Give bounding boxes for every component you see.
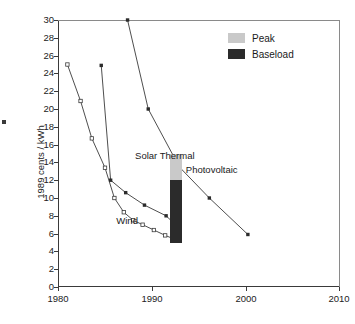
- y-tick-label: 28: [43, 32, 54, 43]
- x-tick-mark: [246, 287, 247, 291]
- y-tick-label: 0: [49, 281, 54, 292]
- data-point-marker: [90, 137, 93, 140]
- y-tick-label: 30: [43, 14, 54, 25]
- y-tick-label: 12: [43, 174, 54, 185]
- series-line-solar-thermal: [101, 65, 179, 228]
- x-tick-label: 2000: [235, 293, 256, 304]
- x-tick-mark: [152, 287, 153, 291]
- data-point-marker: [141, 223, 144, 226]
- plot-area: 024681012141618202224262830 198019902000…: [58, 20, 340, 287]
- data-point-marker: [143, 203, 146, 206]
- legend-label-baseload: Baseload: [252, 49, 294, 60]
- y-tick-label: 8: [49, 210, 54, 221]
- data-point-marker: [66, 63, 69, 66]
- y-tick-label: 16: [43, 139, 54, 150]
- legend-item-peak: Peak: [228, 31, 294, 45]
- legend-swatch-baseload: [228, 49, 245, 59]
- x-tick-label: 2010: [328, 293, 349, 304]
- data-point-marker: [147, 107, 150, 110]
- data-point-marker: [100, 64, 103, 67]
- data-point-marker: [109, 179, 112, 182]
- data-point-marker: [122, 211, 125, 214]
- chart-figure: 1989 cents / kWh 02468101214161820222426…: [0, 0, 355, 324]
- data-point-marker: [164, 214, 167, 217]
- data-point-marker: [152, 228, 155, 231]
- x-tick-label: 1990: [141, 293, 162, 304]
- data-point-marker: [103, 166, 106, 169]
- data-point-marker: [124, 191, 127, 194]
- y-tick-label: 18: [43, 121, 54, 132]
- series-layer: [58, 20, 340, 287]
- data-point-marker: [79, 99, 82, 102]
- annotation-wind: Wind: [116, 215, 138, 226]
- legend-label-peak: Peak: [252, 33, 275, 44]
- x-tick-label: 1980: [47, 293, 68, 304]
- legend-item-baseload: Baseload: [228, 47, 294, 61]
- y-tick-label: 20: [43, 103, 54, 114]
- annotation-solar-thermal: Solar Thermal: [135, 150, 195, 161]
- legend: Peak Baseload: [228, 31, 294, 63]
- x-tick-mark: [58, 287, 59, 291]
- y-tick-label: 26: [43, 50, 54, 61]
- legend-swatch-peak: [228, 33, 245, 43]
- annotation-photovoltaic: Photovoltaic: [186, 164, 238, 175]
- bar-segment-baseload: [170, 180, 182, 243]
- data-point-marker: [163, 234, 166, 237]
- data-point-marker: [126, 18, 129, 21]
- y-tick-label: 14: [43, 156, 54, 167]
- y-tick-label: 24: [43, 67, 54, 78]
- data-point-marker: [246, 233, 249, 236]
- y-tick-label: 2: [49, 263, 54, 274]
- y-tick-label: 10: [43, 192, 54, 203]
- y-tick-label: 4: [49, 245, 54, 256]
- x-tick-mark: [339, 287, 340, 291]
- decorative-mark-left: [2, 120, 6, 124]
- data-point-marker: [208, 196, 211, 199]
- data-point-marker: [113, 196, 116, 199]
- y-tick-label: 6: [49, 228, 54, 239]
- y-tick-label: 22: [43, 85, 54, 96]
